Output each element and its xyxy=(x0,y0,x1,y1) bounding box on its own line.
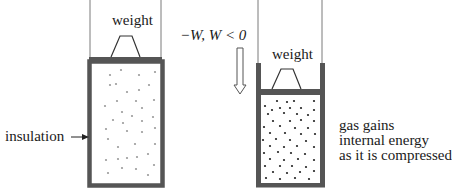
right-weight-icon xyxy=(272,69,301,89)
right-weight-label: weight xyxy=(272,46,313,63)
insulation-arrow-icon xyxy=(71,134,89,140)
left-cylinder-walls xyxy=(90,62,163,186)
compression-arrow-icon xyxy=(234,48,246,94)
insulation-label: insulation xyxy=(5,128,64,145)
caption-line-3: as it is compressed xyxy=(339,147,452,164)
left-gas-particles xyxy=(104,69,156,176)
right-gas-particles xyxy=(262,100,316,180)
left-weight-label: weight xyxy=(112,12,153,29)
right-piston xyxy=(258,89,323,95)
right-cylinder xyxy=(256,0,325,188)
left-weight-icon xyxy=(111,36,140,57)
work-label: −W, W < 0 xyxy=(180,27,246,44)
